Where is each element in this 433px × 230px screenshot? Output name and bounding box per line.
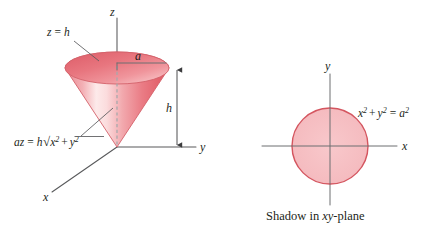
z-axis-label: z (109, 5, 115, 19)
figure-container: z y x z=h a h az=h√x2+y2 (0, 0, 433, 230)
circle-equation-label: x2+y2=a2 (357, 106, 409, 120)
height-label: h (166, 101, 172, 115)
x-axis-label: x (42, 190, 49, 204)
shadow-diagram: y x x2+y2=a2 Shadow in xy-plane (262, 59, 409, 223)
x-axis-label-right: x (401, 139, 408, 153)
x-axis-line-left (52, 147, 117, 192)
cone-equation-label: az=h√x2+y2 (14, 134, 104, 149)
y-axis-label-right: y (324, 59, 331, 73)
svg-text:az=h√x2+y2: az=h√x2+y2 (14, 134, 79, 149)
shadow-caption: Shadow in xy-plane (266, 209, 365, 223)
radius-label: a (135, 49, 141, 63)
y-axis-label: y (199, 140, 206, 154)
diagram-svg: z y x z=h a h az=h√x2+y2 (0, 0, 433, 230)
top-plane-label: z=h (46, 26, 70, 38)
cone-diagram: z y x z=h a h az=h√x2+y2 (14, 5, 206, 204)
